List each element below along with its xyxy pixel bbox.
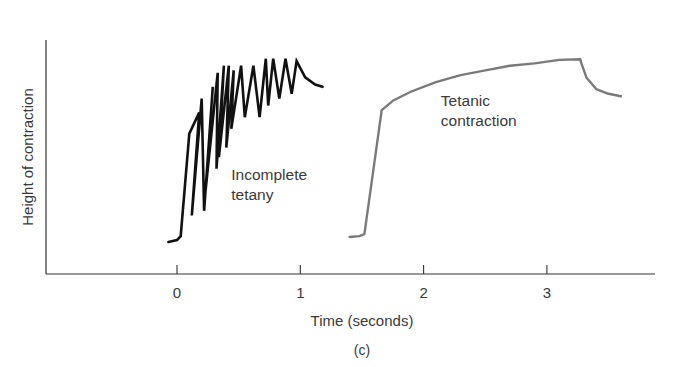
annotation-text: tetany xyxy=(231,186,273,203)
incomplete-tetany-annotation: Incompletetetany xyxy=(231,166,307,203)
x-tick-label: 1 xyxy=(296,284,304,301)
annotations: IncompletetetanyTetaniccontraction xyxy=(231,92,516,204)
series-layer xyxy=(168,59,621,242)
x-axis-ticks: 0123 xyxy=(173,265,551,301)
panel-label: (c) xyxy=(354,342,370,358)
x-tick-label: 3 xyxy=(543,284,551,301)
x-tick-label: 2 xyxy=(419,284,427,301)
x-tick-label: 0 xyxy=(173,284,181,301)
annotation-text: Incomplete xyxy=(231,166,307,183)
incomplete-tetany-curve xyxy=(168,59,322,242)
contraction-chart: 0123 IncompletetetanyTetaniccontraction … xyxy=(0,0,679,367)
annotation-text: Tetanic xyxy=(441,92,490,109)
y-axis-label: Height of contraction xyxy=(19,88,36,226)
axes xyxy=(46,40,655,274)
tetanic-contraction-annotation: Tetaniccontraction xyxy=(441,92,517,129)
annotation-text: contraction xyxy=(441,112,517,129)
x-axis-label: Time (seconds) xyxy=(311,312,414,329)
tetanic-contraction-curve xyxy=(350,59,621,237)
